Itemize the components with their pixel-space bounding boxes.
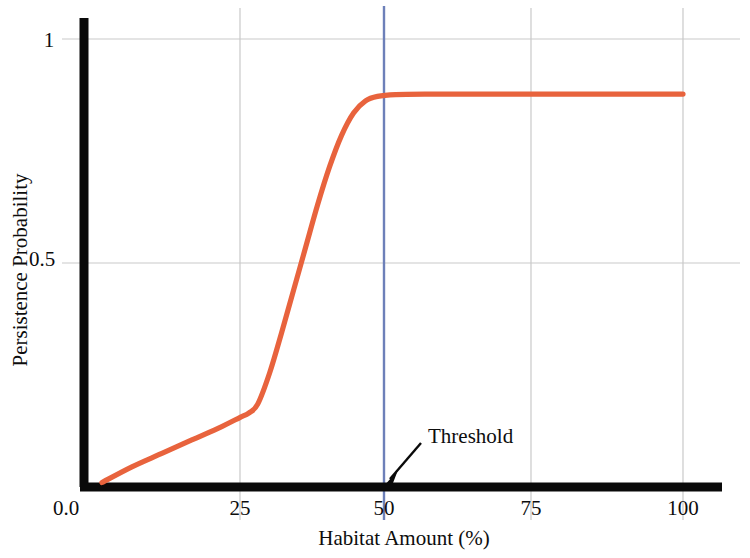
x-axis-title: Habitat Amount (%) [318,526,489,550]
chart-container: 1 0.5 0.0 25 50 75 100 Habitat Amount (%… [0,0,750,558]
x-tick-label-100: 100 [667,496,699,520]
x-tick-label-25: 25 [230,496,251,520]
threshold-annotation-label: Threshold [428,424,514,448]
x-tick-label-50: 50 [374,496,395,520]
x-tick-label-0: 0.0 [53,496,79,520]
y-tick-label-1: 1 [44,28,55,52]
y-axis-title: Persistence Probability [8,173,32,367]
y-tick-label-0_5: 0.5 [29,247,55,271]
x-tick-label-75: 75 [521,496,542,520]
persistence-probability-line-chart: 1 0.5 0.0 25 50 75 100 Habitat Amount (%… [0,0,750,558]
